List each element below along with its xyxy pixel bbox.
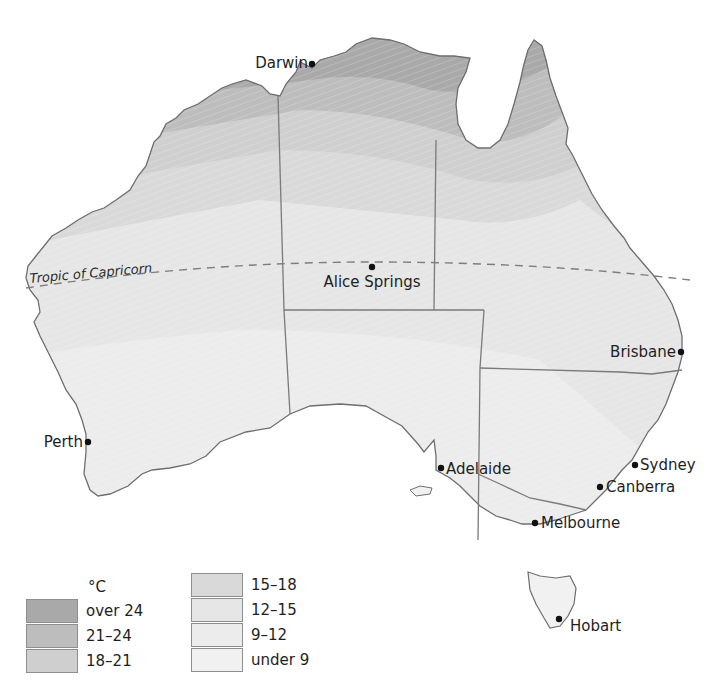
legend-swatch: [191, 598, 243, 622]
legend-item-9-12: 9–12: [191, 623, 287, 647]
legend-swatch: [26, 624, 78, 648]
legend-swatch: [191, 623, 243, 647]
temperature-legend: °C over 24 21–24 18–21 15–18 12–15 9–12 …: [0, 0, 720, 698]
legend-item-over-24: over 24: [26, 599, 143, 623]
legend-item-12-15: 12–15: [191, 598, 297, 622]
legend-label: 15–18: [251, 576, 297, 594]
legend-label: over 24: [86, 602, 143, 620]
legend-label: 21–24: [86, 627, 132, 645]
legend-swatch: [26, 599, 78, 623]
legend-item-21-24: 21–24: [26, 624, 132, 648]
legend-item-under-9: under 9: [191, 648, 309, 672]
legend-swatch: [191, 573, 243, 597]
legend-unit-label: °C: [88, 578, 106, 596]
legend-label: under 9: [251, 651, 309, 669]
legend-label: 12–15: [251, 601, 297, 619]
legend-item-18-21: 18–21: [26, 649, 132, 673]
legend-swatch: [191, 648, 243, 672]
legend-item-15-18: 15–18: [191, 573, 297, 597]
legend-unit: °C: [88, 578, 106, 596]
legend-label: 18–21: [86, 652, 132, 670]
legend-label: 9–12: [251, 626, 287, 644]
legend-swatch: [26, 649, 78, 673]
